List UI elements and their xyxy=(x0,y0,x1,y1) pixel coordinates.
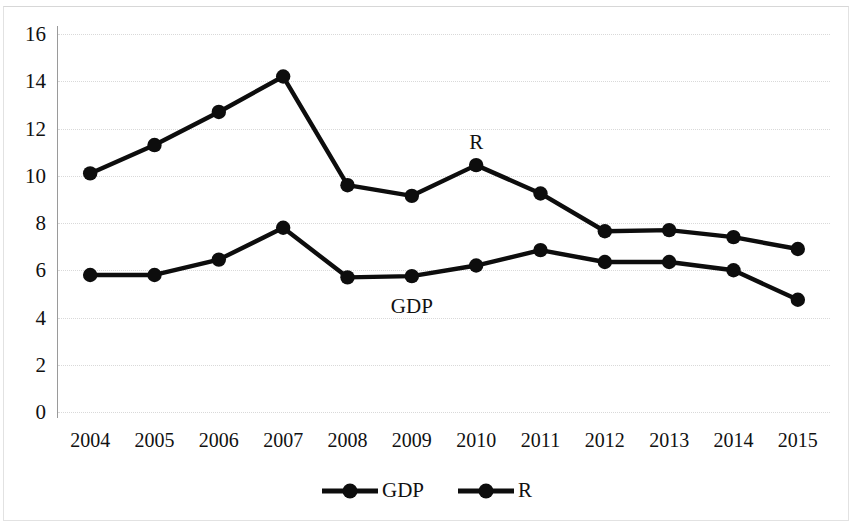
y-axis-tick-label: 0 xyxy=(36,402,47,423)
data-point xyxy=(598,224,612,238)
data-point xyxy=(83,268,97,282)
line-chart: 0246810121416 RGDP 200420052006200720082… xyxy=(0,0,854,529)
data-point xyxy=(405,189,419,203)
data-point xyxy=(276,69,290,83)
legend-line-marker-icon xyxy=(322,483,378,499)
y-axis-tick-label: 14 xyxy=(25,71,46,92)
data-point xyxy=(147,138,161,152)
data-point xyxy=(598,255,612,269)
x-axis-tick-label: 2012 xyxy=(585,430,625,450)
data-point xyxy=(726,263,740,277)
legend-line-marker-icon xyxy=(458,483,514,499)
y-axis-tick-label: 8 xyxy=(36,213,47,234)
series-annotation-r: R xyxy=(469,132,483,153)
data-point xyxy=(469,158,483,172)
plot-area: RGDP xyxy=(58,34,830,412)
data-point xyxy=(340,178,354,192)
gridline xyxy=(58,412,830,413)
data-point xyxy=(533,243,547,257)
data-point xyxy=(662,223,676,237)
legend-item-r[interactable]: R xyxy=(458,480,532,501)
data-point xyxy=(147,268,161,282)
x-axis-tick-label: 2013 xyxy=(649,430,689,450)
x-axis-tick-label: 2004 xyxy=(70,430,110,450)
series-line xyxy=(90,77,798,249)
data-point xyxy=(469,258,483,272)
series-annotation-gdp: GDP xyxy=(391,296,433,317)
x-axis-tick-labels: 2004200520062007200820092010201120122013… xyxy=(58,430,830,458)
data-point xyxy=(662,255,676,269)
data-point xyxy=(726,230,740,244)
y-axis-tick-label: 10 xyxy=(25,165,46,186)
data-point xyxy=(533,186,547,200)
y-axis-tick-label: 12 xyxy=(25,118,46,139)
series-line xyxy=(90,228,798,300)
data-point xyxy=(791,293,805,307)
data-point xyxy=(791,242,805,256)
x-axis-tick-label: 2009 xyxy=(392,430,432,450)
chart-legend: GDPR xyxy=(0,480,854,501)
series-r xyxy=(83,69,805,256)
x-axis-tick-label: 2011 xyxy=(521,430,560,450)
legend-label: R xyxy=(518,480,532,501)
data-point xyxy=(405,269,419,283)
data-point xyxy=(212,105,226,119)
series-layer xyxy=(58,34,830,412)
x-axis-tick-label: 2010 xyxy=(456,430,496,450)
data-point xyxy=(340,270,354,284)
legend-label: GDP xyxy=(382,480,424,501)
y-axis-tick-label: 4 xyxy=(36,307,47,328)
x-axis-tick-label: 2015 xyxy=(778,430,818,450)
data-point xyxy=(276,221,290,235)
x-axis-tick-label: 2006 xyxy=(199,430,239,450)
x-axis-tick-label: 2008 xyxy=(328,430,368,450)
x-axis-tick-label: 2007 xyxy=(263,430,303,450)
legend-item-gdp[interactable]: GDP xyxy=(322,480,424,501)
y-axis-tick-label: 16 xyxy=(25,24,46,45)
data-point xyxy=(83,166,97,180)
y-axis-tick-labels: 0246810121416 xyxy=(0,34,46,412)
x-axis-tick-label: 2014 xyxy=(714,430,754,450)
x-axis-tick-label: 2005 xyxy=(135,430,175,450)
data-point xyxy=(212,252,226,266)
y-axis-tick-label: 2 xyxy=(36,354,47,375)
y-axis-tick-label: 6 xyxy=(36,260,47,281)
